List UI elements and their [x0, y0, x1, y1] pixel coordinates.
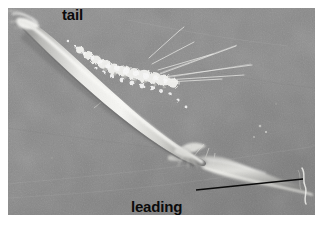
- annotation-label-leading-edge: leading edge: [131, 168, 182, 227]
- annotation-label-leading-edge-line1: leading: [131, 199, 182, 214]
- annotation-label-tail: tail: [62, 7, 83, 22]
- figure-container: tail leading edge: [0, 0, 323, 227]
